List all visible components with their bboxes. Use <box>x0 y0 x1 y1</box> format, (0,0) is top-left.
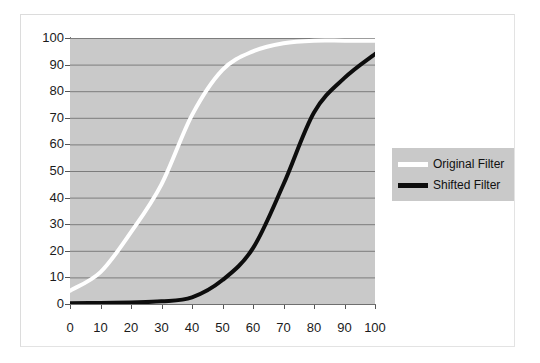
y-tick-label: 50 <box>18 164 64 177</box>
plot-svg <box>70 38 375 304</box>
y-tick-label: 10 <box>18 270 64 283</box>
x-tick-label: 100 <box>357 321 393 334</box>
legend-swatch-shifted-filter <box>398 183 428 188</box>
y-tick-label: 40 <box>18 191 64 204</box>
plot-area <box>70 38 375 304</box>
y-tick-label: 70 <box>18 111 64 124</box>
y-tick-label: 100 <box>18 31 64 44</box>
chart-figure: 0102030405060708090100 01020304050607080… <box>0 0 540 363</box>
legend-label-original-filter: Original Filter <box>433 158 504 170</box>
chart-legend: Original Filter Shifted Filter <box>392 148 514 201</box>
y-tick-label: 20 <box>18 244 64 257</box>
y-tick-label: 90 <box>18 58 64 71</box>
legend-swatch-original-filter <box>398 162 428 167</box>
y-tick-label: 60 <box>18 137 64 150</box>
y-tick-label: 80 <box>18 84 64 97</box>
x-axis-line <box>70 304 376 305</box>
series-line-original-filter <box>70 40 375 290</box>
y-tick-label: 30 <box>18 217 64 230</box>
legend-item-shifted-filter: Shifted Filter <box>392 174 514 196</box>
legend-label-shifted-filter: Shifted Filter <box>433 179 500 191</box>
gridlines <box>70 39 375 278</box>
legend-item-original-filter: Original Filter <box>392 153 514 175</box>
y-tick-label: 0 <box>18 297 64 310</box>
